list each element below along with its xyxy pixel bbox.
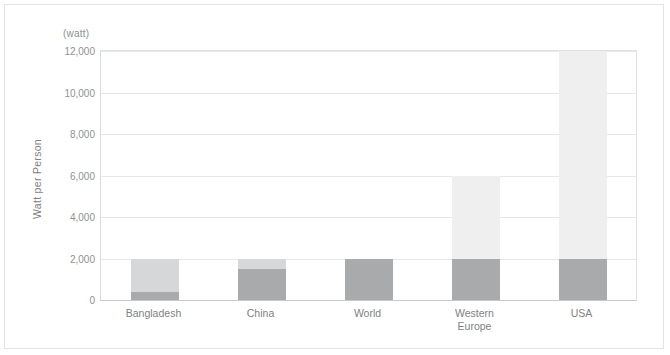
bar-segment-upper [131, 259, 179, 292]
y-axis-tick-label: 6,000 [5, 170, 95, 181]
bar-segment-lower [238, 269, 286, 300]
bar-segment-upper [238, 259, 286, 269]
bar-segment-lower [131, 292, 179, 300]
bar-segment-upper [452, 176, 500, 259]
x-axis-label: China [206, 307, 316, 320]
bar[interactable] [131, 51, 179, 300]
bar-segment-lower [345, 259, 393, 301]
x-axis-label: USA [527, 307, 637, 320]
plot-area [100, 50, 637, 301]
bar[interactable] [238, 51, 286, 300]
y-axis-tick-label: 4,000 [5, 212, 95, 223]
x-axis-label: World [313, 307, 423, 320]
x-axis-label: Western Europe [420, 307, 530, 333]
y-axis-tick-labels: 02,0004,0006,0008,00010,00012,000 [5, 50, 95, 301]
x-axis-label: Bangladesh [99, 307, 209, 320]
bar[interactable] [559, 51, 607, 300]
y-axis-unit-label: (watt) [63, 28, 89, 39]
bar[interactable] [452, 51, 500, 300]
y-axis-tick-label: 12,000 [5, 46, 95, 57]
bar-segment-lower [452, 259, 500, 301]
bar-segment-upper [559, 51, 607, 259]
y-axis-tick-label: 2,000 [5, 253, 95, 264]
bar-segment-lower [559, 259, 607, 301]
y-axis-tick-label: 0 [5, 295, 95, 306]
chart-frame: (watt) Watt per Person 02,0004,0006,0008… [4, 4, 664, 349]
bar[interactable] [345, 51, 393, 300]
y-axis-tick-label: 8,000 [5, 129, 95, 140]
y-axis-tick-label: 10,000 [5, 87, 95, 98]
